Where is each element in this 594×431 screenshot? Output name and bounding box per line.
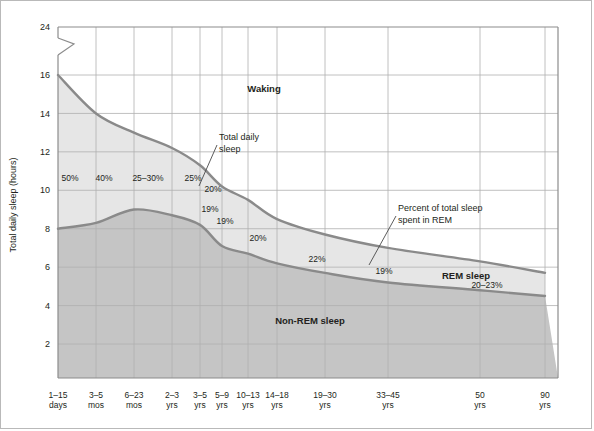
y-tick-4: 4 bbox=[45, 301, 50, 311]
x-tick-6: 10–13yrs bbox=[236, 390, 260, 410]
x-tick-10-line1: 50 bbox=[475, 390, 485, 400]
rem-percent-label-0: 50% bbox=[61, 173, 78, 183]
rem-percent-label-7: 20% bbox=[249, 233, 266, 243]
x-tick-11-line1: 90 bbox=[540, 390, 550, 400]
x-tick-2-line2: mos bbox=[126, 400, 142, 410]
x-tick-8-line1: 19–30 bbox=[313, 390, 337, 400]
x-tick-1-line1: 3–5 bbox=[89, 390, 103, 400]
y-tick-2: 2 bbox=[45, 339, 50, 349]
x-tick-7-line2: yrs bbox=[271, 400, 282, 410]
band-label-rem-sleep: REM sleep bbox=[442, 270, 490, 281]
x-tick-11-line2: yrs bbox=[539, 400, 550, 410]
rem-percent-label-1: 40% bbox=[95, 173, 112, 183]
x-tick-5-line2: yrs bbox=[216, 400, 227, 410]
x-tick-8: 19–30yrs bbox=[313, 390, 337, 410]
y-tick-8: 8 bbox=[45, 224, 50, 234]
rem-percent-label-8: 22% bbox=[308, 254, 325, 264]
x-tick-10: 50yrs bbox=[474, 390, 485, 410]
x-tick-3-line1: 2–3 bbox=[165, 390, 179, 400]
x-tick-0-line1: 1–15 bbox=[49, 390, 68, 400]
x-tick-4-line2: yrs bbox=[194, 400, 205, 410]
x-tick-6-line1: 10–13 bbox=[236, 390, 260, 400]
rem-percent-label-2: 25–30% bbox=[132, 173, 164, 183]
x-tick-10-line2: yrs bbox=[474, 400, 485, 410]
x-tick-2: 6–23mos bbox=[125, 390, 144, 410]
sleep-chart-figure: 24161412108642 Total daily sleep (hours)… bbox=[0, 0, 594, 431]
callout-percent-rem-line2: spent in REM bbox=[398, 215, 452, 225]
y-tick-6: 6 bbox=[45, 262, 50, 272]
x-tick-9-line1: 33–45 bbox=[376, 390, 400, 400]
rem-percent-label-10: 20–23% bbox=[471, 280, 503, 290]
x-tick-1-line2: mos bbox=[88, 400, 104, 410]
chart-canvas: 24161412108642 Total daily sleep (hours)… bbox=[0, 0, 594, 431]
y-tick-16: 16 bbox=[40, 70, 50, 80]
x-tick-8-line2: yrs bbox=[319, 400, 330, 410]
x-tick-2-line1: 6–23 bbox=[125, 390, 144, 400]
band-label-non-rem-sleep: Non-REM sleep bbox=[275, 315, 345, 326]
axis-break-zigzag bbox=[58, 38, 74, 55]
rem-percent-label-9: 19% bbox=[375, 266, 392, 276]
x-tick-9-line2: yrs bbox=[382, 400, 393, 410]
x-tick-3-line2: yrs bbox=[166, 400, 177, 410]
rem-percent-label-3: 25% bbox=[184, 173, 201, 183]
x-tick-6-line2: yrs bbox=[242, 400, 253, 410]
band-label-waking: Waking bbox=[247, 83, 281, 94]
x-tick-5-line1: 5–9 bbox=[215, 390, 229, 400]
x-axis-tick-labels: 1–15days3–5mos6–23mos2–3yrs3–5yrs5–9yrs1… bbox=[49, 390, 551, 410]
x-tick-5: 5–9yrs bbox=[215, 390, 229, 410]
x-tick-0: 1–15days bbox=[49, 390, 68, 410]
x-tick-4: 3–5yrs bbox=[193, 390, 207, 410]
callout-total-daily-sleep-line1: Total daily bbox=[219, 132, 260, 142]
x-tick-7-line1: 14–18 bbox=[265, 390, 289, 400]
x-tick-11: 90yrs bbox=[539, 390, 550, 410]
x-tick-1: 3–5mos bbox=[88, 390, 104, 410]
x-tick-4-line1: 3–5 bbox=[193, 390, 207, 400]
y-tick-14: 14 bbox=[40, 109, 50, 119]
callout-total-daily-sleep-line2: sleep bbox=[219, 144, 241, 154]
rem-percent-label-5: 19% bbox=[201, 204, 218, 214]
x-tick-9: 33–45yrs bbox=[376, 390, 400, 410]
y-tick-10: 10 bbox=[40, 185, 50, 195]
rem-percent-label-4: 20% bbox=[204, 184, 221, 194]
y-axis-tick-labels: 24161412108642 bbox=[40, 22, 50, 349]
x-tick-0-line2: days bbox=[49, 400, 67, 410]
callout-percent-rem-line1: Percent of total sleep bbox=[398, 203, 483, 213]
y-tick-12: 12 bbox=[40, 147, 50, 157]
y-axis-title: Total daily sleep (hours) bbox=[8, 157, 18, 252]
rem-percent-label-6: 19% bbox=[216, 216, 233, 226]
x-tick-7: 14–18yrs bbox=[265, 390, 289, 410]
y-tick-24: 24 bbox=[40, 22, 50, 32]
x-tick-3: 2–3yrs bbox=[165, 390, 179, 410]
